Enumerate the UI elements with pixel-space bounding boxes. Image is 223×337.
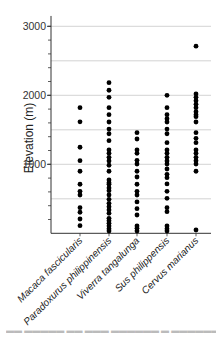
data-point bbox=[135, 213, 140, 218]
data-point bbox=[107, 105, 112, 110]
data-point bbox=[107, 188, 112, 193]
data-point bbox=[78, 217, 83, 222]
data-point bbox=[107, 163, 112, 168]
data-point bbox=[135, 200, 140, 205]
data-point bbox=[165, 229, 170, 234]
data-point bbox=[107, 80, 112, 85]
data-point bbox=[135, 130, 140, 135]
data-point bbox=[194, 228, 199, 233]
data-point bbox=[107, 138, 112, 143]
data-point bbox=[78, 182, 83, 187]
gridlines bbox=[51, 26, 211, 199]
data-points bbox=[78, 44, 199, 234]
y-axis-label: Elevation (m) bbox=[22, 103, 36, 174]
data-point bbox=[194, 162, 199, 167]
data-point bbox=[78, 158, 83, 163]
data-point bbox=[107, 193, 112, 198]
data-point bbox=[107, 120, 112, 125]
data-point bbox=[194, 136, 199, 141]
data-point bbox=[135, 193, 140, 198]
data-point bbox=[165, 127, 170, 132]
data-point bbox=[107, 112, 112, 117]
data-point bbox=[107, 229, 112, 234]
y-axis: 100020003000 bbox=[23, 16, 211, 236]
data-point bbox=[165, 162, 170, 167]
x-axis-category-labels: Macaca fascicularisParadoxurus philippin… bbox=[15, 235, 200, 328]
data-point bbox=[194, 120, 199, 125]
elevation-dot-plot: 100020003000 Macaca fascicularisParadoxu… bbox=[0, 0, 223, 337]
data-point bbox=[107, 131, 112, 136]
data-point bbox=[165, 140, 170, 145]
data-point bbox=[165, 209, 170, 214]
data-point bbox=[107, 127, 112, 132]
data-point bbox=[78, 119, 83, 124]
data-point bbox=[135, 169, 140, 174]
data-point bbox=[165, 167, 170, 172]
data-point bbox=[135, 206, 140, 211]
data-point bbox=[194, 44, 199, 49]
data-point bbox=[107, 88, 112, 93]
data-point bbox=[135, 175, 140, 180]
figure-caption-fragment: ▬▬ ▬▬▬▬▬ ▬▬ ▬▬▬ ▬▬▬▬▬▬ ▬ ▬▬▬▬▬▬▬▬ ▬▬ ▬▬▬… bbox=[6, 328, 216, 334]
data-point bbox=[194, 140, 199, 145]
data-point bbox=[165, 182, 170, 187]
data-point bbox=[78, 193, 83, 198]
data-point bbox=[107, 169, 112, 174]
data-point bbox=[165, 120, 170, 125]
data-point bbox=[165, 189, 170, 194]
data-point bbox=[107, 211, 112, 216]
data-point bbox=[78, 145, 83, 150]
data-point bbox=[194, 114, 199, 119]
data-point bbox=[165, 105, 170, 110]
data-point bbox=[135, 182, 140, 187]
data-point bbox=[135, 162, 140, 167]
data-point bbox=[78, 169, 83, 174]
data-point bbox=[78, 210, 83, 215]
data-point bbox=[165, 196, 170, 201]
data-point bbox=[107, 95, 112, 100]
data-point bbox=[194, 130, 199, 135]
y-tick-label: 3000 bbox=[23, 20, 47, 32]
data-point bbox=[135, 151, 140, 156]
y-tick-label: 2000 bbox=[23, 89, 47, 101]
data-point bbox=[135, 137, 140, 142]
data-point bbox=[78, 223, 83, 228]
data-point bbox=[78, 105, 83, 110]
data-point bbox=[165, 175, 170, 180]
data-point bbox=[78, 205, 83, 210]
data-point bbox=[165, 93, 170, 98]
data-point bbox=[135, 229, 140, 234]
data-point bbox=[194, 169, 199, 174]
data-point bbox=[165, 131, 170, 136]
data-point bbox=[107, 159, 112, 164]
